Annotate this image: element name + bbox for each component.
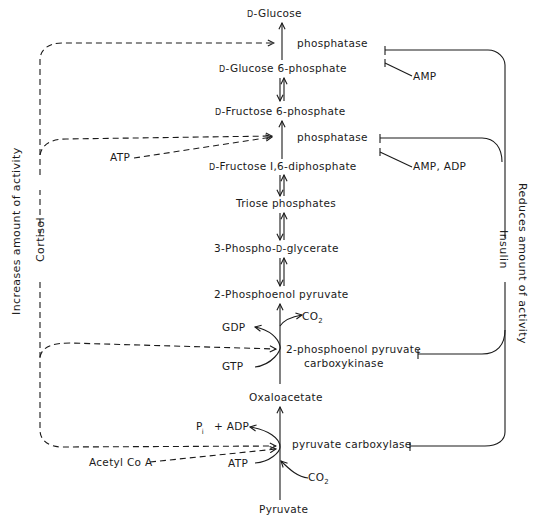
metabolite-triose-phosphates: Triose phosphates (235, 197, 336, 209)
enzyme-glucose-6-phosphatase: phosphatase (297, 37, 368, 49)
metabolite-glucose-6-phosphate: D-Glucose 6-phosphate (219, 62, 347, 74)
metabolite-fructose-1-6-diphosphate: D-Fructose I,6-diphosphate (209, 160, 357, 172)
cofactor-gdp: GDP (222, 321, 245, 333)
metabolite-phosphoenol-pyruvate: 2-Phosphoenol pyruvate (214, 288, 349, 300)
svg-text:2-Phosphoenol pyruvate: 2-Phosphoenol pyruvate (214, 288, 349, 300)
svg-text:D-Glucose 6-phosphate: D-Glucose 6-phosphate (219, 62, 347, 74)
cortisol-branch-pepck (40, 343, 276, 357)
insulin-line-to-pepck (418, 330, 505, 354)
svg-text:D-Fructose 6-phosphate: D-Fructose 6-phosphate (215, 105, 345, 117)
inhibitor-amp: AMP (413, 70, 436, 82)
activator-atp: ATP (110, 151, 130, 163)
hormone-insulin: Insulin (497, 230, 510, 269)
amp-adp-inhibition: AMP, ADP (380, 148, 466, 172)
insulin-inhibition-network: Insulin (380, 46, 510, 451)
svg-text:3-Phospho-D-glycerate: 3-Phospho-D-glycerate (214, 242, 339, 254)
enzyme-pepck-line1: 2-phosphoenol pyruvate (286, 343, 421, 355)
inhibit-line-amp-adp (380, 152, 412, 167)
insulin-line-to-g6pase (385, 50, 505, 238)
enzyme-pepck-line2: carboxykinase (304, 357, 384, 369)
gluconeogenesis-diagram: D-Glucose D-Glucose 6-phosphate D-Fructo… (0, 0, 538, 526)
amp-inhibition: AMP (385, 59, 436, 82)
pathway-arrows (280, 23, 284, 500)
enzyme-pyruvate-carboxylase: pyruvate carboxylase (292, 438, 411, 450)
activator-acetyl-coa: Acetyl Co A (89, 456, 153, 468)
svg-text:Oxaloacetate: Oxaloacetate (249, 391, 323, 403)
svg-text:Triose phosphates: Triose phosphates (235, 197, 336, 209)
svg-text:D-Fructose I,6-diphosphate: D-Fructose I,6-diphosphate (209, 160, 357, 172)
metabolite-glucose: D-Glucose (247, 7, 302, 19)
metabolite-oxaloacetate: Oxaloacetate (249, 391, 323, 403)
cortisol-line-to-fbpase (40, 136, 272, 155)
arrow-co2-release-pepck (280, 315, 302, 326)
arrow-acetyl-coa-to-pc (150, 449, 276, 462)
metabolite-pyruvate: Pyruvate (259, 503, 308, 515)
metabolite-fructose-6-phosphate: D-Fructose 6-phosphate (215, 105, 345, 117)
svg-text:Pyruvate: Pyruvate (259, 503, 308, 515)
arrow-co2-to-pc (281, 461, 308, 478)
arrow-atp-to-fbpase (134, 137, 272, 158)
insulin-line-lower (410, 282, 505, 446)
inhibitor-amp-adp: AMP, ADP (413, 160, 466, 172)
cofactor-adp: + ADP (214, 420, 249, 432)
metabolite-3-phospho-glycerate: 3-Phospho-D-glycerate (214, 242, 339, 254)
side-label-increases: Increases amount of activity (10, 147, 23, 315)
side-label-reduces: Reduces amount of activity (516, 183, 529, 344)
inhibit-line-amp (385, 63, 412, 76)
cofactor-co2-pepck: CO2 (302, 310, 323, 325)
enzyme-fructose-bisphosphatase: phosphatase (297, 131, 368, 143)
hormone-cortisol: Cortisol (34, 217, 47, 262)
arrow-gtp-to-gdp (255, 327, 280, 367)
arrow-atp-to-adp (250, 427, 280, 463)
cofactor-atp-pc: ATP (228, 457, 248, 469)
cofactor-gtp: GTP (222, 360, 243, 372)
insulin-line-to-fbpase (380, 138, 502, 162)
svg-text:D-Glucose: D-Glucose (247, 7, 302, 19)
cofactor-pi: Pi (196, 420, 204, 436)
cofactor-co2-pc: CO2 (308, 471, 329, 486)
pc-cofactors: Pi + ADP ATP CO2 (196, 420, 329, 486)
